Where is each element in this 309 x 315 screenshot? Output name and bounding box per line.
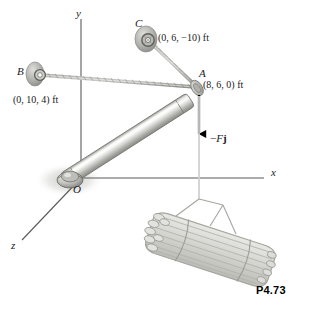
z-axis-label: z — [11, 240, 15, 251]
pipe-bundle-load — [138, 199, 280, 291]
figure-container: y x z O B (0, 10, 4) ft C (0, 6, −10) ft… — [0, 0, 309, 315]
problem-number: P4.73 — [256, 285, 286, 296]
force-magnitude: F — [216, 132, 223, 144]
force-label: −Fj — [210, 133, 227, 144]
force-unit-vector: j — [223, 132, 227, 144]
cable-AC — [150, 42, 196, 86]
point-label-C: C — [135, 18, 142, 29]
y-axis-label: y — [76, 8, 81, 19]
boom-OA — [60, 78, 206, 187]
point-coordinates-C: (0, 6, −10) ft — [158, 33, 209, 43]
cable-AB — [41, 73, 195, 88]
origin-label-O: O — [73, 184, 81, 195]
point-coordinates-B: (0, 10, 4) ft — [13, 95, 58, 105]
point-label-B: B — [17, 66, 24, 77]
x-axis-label: x — [271, 167, 276, 178]
point-coordinates-A: (8, 6, 0) ft — [203, 80, 243, 90]
anchor-C — [135, 26, 157, 52]
anchor-B — [26, 62, 45, 86]
figure-drawing — [0, 0, 309, 315]
point-label-A: A — [199, 68, 206, 79]
